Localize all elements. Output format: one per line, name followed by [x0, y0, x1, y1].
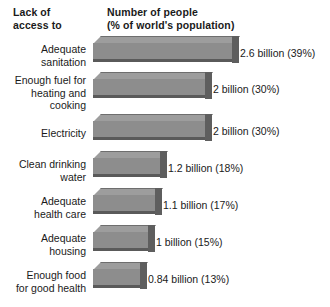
bar-side-face: [160, 151, 167, 178]
bar-3d: [93, 225, 155, 252]
bar-3d: [93, 72, 212, 99]
bar-row: Adequate health care1.1 billion (17%): [0, 188, 330, 222]
bar-side-face: [148, 225, 155, 252]
bar-side-face: [205, 72, 212, 99]
bar-category-label: Adequate health care: [0, 195, 86, 220]
header-category-line1: Lack of: [13, 6, 93, 19]
bar-value-label: 1.2 billion (18%): [168, 162, 243, 175]
bar-chart: Lack of access to Number of people (% of…: [0, 0, 330, 307]
bar-front-face: [93, 195, 155, 214]
bar-value-label: 2 billion (30%): [213, 125, 280, 138]
header-value-line1: Number of people: [107, 6, 317, 19]
bar-side-face: [140, 262, 147, 289]
bar-category-label: Enough food for good health: [0, 269, 86, 294]
bar-front-face: [93, 79, 205, 98]
header-value-line2: (% of world's population): [107, 19, 317, 32]
bar-category-label: Clean drinking water: [0, 158, 86, 183]
bar-category-label: Adequate housing: [0, 232, 86, 257]
bar-side-face: [155, 188, 162, 215]
bar-3d: [93, 262, 147, 289]
bar-3d: [93, 36, 239, 63]
bar-front-face: [93, 121, 205, 140]
bar-value-label: 2.6 billion (39%): [240, 47, 315, 60]
bar-side-face: [205, 114, 212, 141]
header-category-column: Lack of access to: [13, 6, 93, 31]
bar-front-face: [93, 232, 148, 251]
bar-value-label: 2 billion (30%): [213, 83, 280, 96]
bar-row: Enough food for good health0.84 billion …: [0, 262, 330, 296]
bar-value-label: 0.84 billion (13%): [148, 273, 229, 286]
bar-front-face: [93, 158, 160, 177]
bar-row: Enough fuel for heating and cooking2 bil…: [0, 72, 330, 106]
bar-row: Electricity2 billion (30%): [0, 114, 330, 148]
bar-side-face: [232, 36, 239, 63]
bar-row: Adequate sanitation2.6 billion (39%): [0, 36, 330, 70]
bar-category-label: Electricity: [0, 127, 86, 140]
header-category-line2: access to: [13, 19, 93, 32]
bar-value-label: 1 billion (15%): [156, 236, 223, 249]
chart-header: Lack of access to Number of people (% of…: [0, 6, 330, 34]
bar-value-label: 1.1 billion (17%): [163, 199, 238, 212]
bar-category-label: Adequate sanitation: [0, 43, 86, 68]
bar-row: Clean drinking water1.2 billion (18%): [0, 151, 330, 185]
bar-row: Adequate housing1 billion (15%): [0, 225, 330, 259]
bar-3d: [93, 114, 212, 141]
header-value-column: Number of people (% of world's populatio…: [107, 6, 317, 31]
bar-front-face: [93, 43, 232, 62]
bar-category-label: Enough fuel for heating and cooking: [0, 74, 86, 112]
bar-3d: [93, 151, 167, 178]
bar-front-face: [93, 269, 140, 288]
bar-3d: [93, 188, 162, 215]
